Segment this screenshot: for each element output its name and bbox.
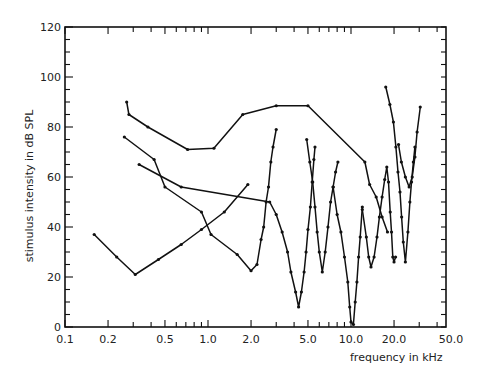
- data-point: [200, 210, 203, 213]
- data-point: [300, 290, 303, 293]
- data-point: [416, 130, 419, 133]
- data-point: [411, 175, 414, 178]
- x-tick-label: 1.0: [199, 333, 217, 346]
- data-point: [398, 190, 401, 193]
- data-point: [306, 228, 309, 231]
- data-point: [311, 180, 314, 183]
- data-point: [180, 243, 183, 246]
- data-point: [318, 250, 321, 253]
- data-point: [313, 205, 316, 208]
- data-point: [294, 290, 297, 293]
- x-axis-ticks: 0.10.20.51.02.05.010.020.050.0: [56, 27, 463, 346]
- data-point: [343, 255, 346, 258]
- data-point: [336, 160, 339, 163]
- x-tick-label: 0.2: [99, 333, 117, 346]
- series-curve-4: [93, 183, 250, 276]
- data-point: [308, 160, 311, 163]
- data-point: [286, 250, 289, 253]
- data-point: [413, 155, 416, 158]
- data-point: [180, 185, 183, 188]
- data-series: [93, 85, 422, 326]
- data-point: [146, 125, 149, 128]
- data-point: [236, 253, 239, 256]
- data-point: [297, 305, 300, 308]
- data-point: [157, 258, 160, 261]
- data-point: [153, 158, 156, 161]
- data-point: [408, 200, 411, 203]
- data-point: [332, 185, 335, 188]
- data-point: [306, 104, 309, 107]
- data-point: [127, 113, 130, 116]
- data-point: [267, 185, 270, 188]
- data-point: [268, 200, 271, 203]
- data-point: [313, 145, 316, 148]
- data-point: [369, 265, 372, 268]
- data-point: [397, 143, 400, 146]
- y-tick-label: 0: [54, 321, 61, 334]
- data-point: [400, 160, 403, 163]
- series-line: [386, 87, 415, 262]
- data-point: [390, 230, 393, 233]
- series-curve-3: [138, 145, 317, 308]
- data-point: [336, 213, 339, 216]
- data-point: [348, 305, 351, 308]
- y-tick-label: 60: [47, 171, 61, 184]
- data-point: [389, 210, 392, 213]
- data-point: [186, 148, 189, 151]
- data-point: [125, 100, 128, 103]
- data-point: [394, 145, 397, 148]
- data-point: [309, 205, 312, 208]
- series-line: [399, 107, 421, 187]
- x-tick-label: 0.5: [156, 333, 174, 346]
- data-point: [346, 280, 349, 283]
- y-axis-label: stimulus intensity in dB SPL: [23, 109, 36, 262]
- plot-frame: [65, 27, 446, 327]
- data-point: [357, 255, 360, 258]
- y-tick-label: 20: [47, 271, 61, 284]
- data-point: [324, 250, 327, 253]
- data-point: [305, 138, 308, 141]
- data-point: [275, 104, 278, 107]
- x-tick-label: 50.0: [439, 333, 464, 346]
- data-point: [115, 255, 118, 258]
- plot-border: [65, 27, 446, 327]
- data-point: [262, 225, 265, 228]
- data-point: [384, 85, 387, 88]
- data-point: [271, 145, 274, 148]
- data-point: [400, 215, 403, 218]
- y-tick-label: 120: [40, 21, 61, 34]
- data-point: [385, 165, 388, 168]
- data-point: [367, 255, 370, 258]
- data-point: [281, 230, 284, 233]
- data-point: [388, 103, 391, 106]
- y-tick-label: 100: [40, 71, 61, 84]
- data-point: [419, 105, 422, 108]
- series-line: [139, 147, 315, 307]
- data-point: [378, 215, 381, 218]
- series-curve-6: [332, 185, 364, 326]
- data-point: [355, 280, 358, 283]
- x-tick-label: 5.0: [299, 333, 317, 346]
- data-point: [402, 240, 405, 243]
- x-axis-label: frequency in kHz: [350, 351, 443, 364]
- data-point: [394, 255, 397, 258]
- data-point: [123, 135, 126, 138]
- series-line: [127, 102, 388, 232]
- data-point: [289, 270, 292, 273]
- data-point: [404, 260, 407, 263]
- data-point: [200, 228, 203, 231]
- data-point: [209, 233, 212, 236]
- data-point: [406, 230, 409, 233]
- x-tick-label: 20.0: [382, 333, 407, 346]
- data-point: [396, 170, 399, 173]
- data-point: [304, 250, 307, 253]
- data-point: [375, 235, 378, 238]
- data-point: [255, 263, 258, 266]
- data-point: [326, 225, 329, 228]
- series-line: [94, 185, 248, 275]
- data-point: [368, 183, 371, 186]
- data-point: [339, 230, 342, 233]
- x-tick-label: 10.0: [339, 333, 364, 346]
- data-point: [275, 213, 278, 216]
- data-point: [275, 128, 278, 131]
